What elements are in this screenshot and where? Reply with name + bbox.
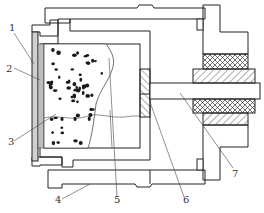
shaft [150,83,260,99]
particle [71,68,74,70]
particle [88,117,91,121]
label-3: 3 [8,136,14,147]
particle [84,55,87,58]
flange-upper [203,5,248,54]
particle [56,51,61,55]
label-7: 7 [232,168,238,179]
particle [90,108,93,111]
particle [57,141,60,144]
cross-section-diagram: 1 2 3 4 5 6 7 [0,0,264,213]
particle [66,81,69,84]
particle [94,60,97,62]
particle [53,89,58,92]
piston-plate [140,69,150,117]
particle [74,117,77,121]
particle [66,86,71,90]
label-2: 2 [6,63,12,74]
particle [91,59,94,63]
particle [52,141,55,145]
front-plate-inner [38,44,44,148]
label-4: 4 [55,194,61,205]
flange-step-top [197,19,203,30]
particle [60,117,63,121]
particle [73,139,78,142]
particle [82,91,85,95]
particle [53,117,57,119]
particle [51,48,55,52]
housing-top [45,5,205,23]
particle [90,93,93,97]
label-6: 6 [183,194,189,205]
leader-1 [14,33,34,64]
label-5: 5 [114,194,120,205]
particle [79,78,82,82]
particle [76,51,79,54]
front-plate-outer [32,32,38,161]
particle [58,98,61,100]
particle [51,62,55,65]
particle [79,73,82,76]
particle [76,113,80,117]
particle [82,85,86,88]
gland-upper [193,69,255,83]
seal-lower [193,99,255,113]
gland-lower [203,113,248,125]
flange-lower [203,125,248,180]
particle [71,99,75,102]
leader-6 [150,102,184,197]
particle [101,72,103,75]
particle [51,131,54,134]
label-1: 1 [9,22,15,33]
particle [76,89,81,93]
particle [71,96,74,98]
particle [76,100,79,103]
flange-step-bottom [197,159,203,170]
housing-bottom [48,170,205,188]
particle [61,132,65,135]
leader-4 [62,184,90,199]
particle [49,83,52,87]
particle [73,82,77,86]
particle [86,61,90,64]
particle [60,127,63,129]
particle [55,68,58,71]
particle [85,94,90,98]
particle [79,141,83,145]
particle [58,75,60,79]
particle [88,113,92,117]
particle [72,53,77,57]
seal-upper [203,54,248,69]
